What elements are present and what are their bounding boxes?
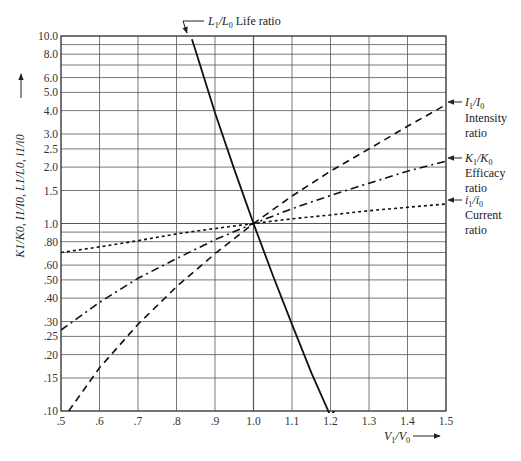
series-life-line [192, 39, 334, 416]
y-tick-label: 8.0 [44, 48, 59, 60]
intensity-ratio-label: I1/I0 Intensity ratio [448, 95, 507, 140]
svg-text:K1/K0, I1/I0, L1/L0, i1/i0: K1/K0, I1/I0, L1/L0, i1/i0 [13, 134, 27, 258]
svg-text:Intensity: Intensity [465, 111, 507, 125]
chart-figure: 10.08.06.05.04.03.02.52.01.51.0.80.60.50… [0, 0, 521, 461]
efficacy-ratio-label: K1/K0 Efficacy ratio [448, 151, 505, 195]
y-axis-label: K1/K0, I1/I0, L1/L0, i1/i0 [13, 74, 27, 259]
y-tick-label: 10.0 [38, 30, 58, 42]
y-tick-label: 6.0 [44, 72, 59, 84]
y-tick-label: 1.5 [44, 185, 59, 197]
svg-text:I1/I0: I1/I0 [464, 95, 484, 111]
svg-text:V1/V0: V1/V0 [384, 429, 410, 445]
svg-text:ratio: ratio [465, 126, 487, 140]
x-tick-label: 1.4 [400, 415, 415, 427]
y-tick-label: .40 [44, 292, 59, 304]
svg-text:i1/i0: i1/i0 [465, 193, 483, 209]
y-tick-label: .60 [44, 259, 59, 271]
y-tick-label: .15 [44, 372, 59, 384]
x-axis-label: V1/V0 [384, 429, 440, 445]
y-tick-label: 5.0 [44, 86, 59, 98]
svg-text:Efficacy: Efficacy [465, 166, 505, 180]
y-tick-label: 4.0 [44, 105, 59, 117]
svg-text:Current: Current [465, 208, 502, 222]
svg-text:K1/K0: K1/K0 [464, 151, 492, 167]
y-axis-ticks: 10.08.06.05.04.03.02.52.01.51.0.80.60.50… [38, 30, 58, 417]
y-tick-label: 1.0 [44, 218, 59, 230]
y-tick-label: .50 [44, 274, 59, 286]
y-tick-label: .80 [44, 236, 59, 248]
y-tick-label: 2.5 [44, 143, 59, 155]
x-tick-label: .5 [57, 415, 66, 427]
x-tick-label: .6 [95, 415, 104, 427]
series-intensity-line [69, 105, 446, 411]
svg-text:ratio: ratio [465, 223, 487, 237]
y-tick-label: 2.0 [44, 161, 59, 173]
x-tick-label: 1.0 [246, 415, 261, 427]
x-tick-label: .9 [211, 415, 220, 427]
svg-text:L1/L0Life ratio: L1/L0Life ratio [207, 14, 281, 30]
current-ratio-label: i1/i0 Current ratio [448, 193, 502, 237]
x-tick-label: 1.1 [285, 415, 300, 427]
x-tick-label: 1.2 [323, 415, 338, 427]
x-tick-label: .7 [134, 415, 143, 427]
y-tick-label: .30 [44, 316, 59, 328]
y-tick-label: 3.0 [44, 128, 59, 140]
x-tick-label: 1.5 [439, 415, 454, 427]
y-tick-label: .25 [44, 330, 59, 342]
life-ratio-label: L1/L0Life ratio [183, 14, 281, 33]
x-axis-ticks: .5.6.7.8.91.01.11.21.31.41.5 [57, 415, 454, 427]
x-tick-label: .8 [172, 415, 181, 427]
y-tick-label: .20 [44, 349, 59, 361]
x-tick-label: 1.3 [362, 415, 377, 427]
